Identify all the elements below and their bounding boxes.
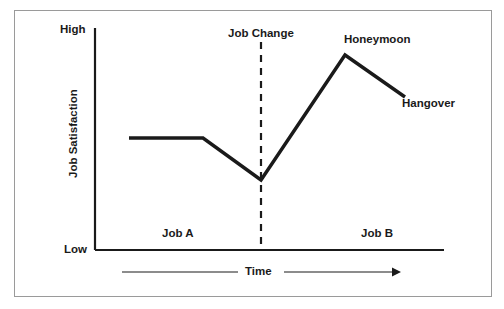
annotation-job-change: Job Change <box>228 28 294 40</box>
chart-figure: High Low Job Satisfaction Job Change Hon… <box>0 0 504 309</box>
satisfaction-line <box>129 55 405 180</box>
x-axis-title: Time <box>245 266 272 278</box>
region-label-job-b: Job B <box>361 228 393 240</box>
y-axis-tick-low: Low <box>64 244 87 256</box>
annotation-honeymoon: Honeymoon <box>344 34 410 46</box>
y-axis-title: Job Satisfaction <box>68 89 80 178</box>
annotation-hangover: Hangover <box>402 98 455 110</box>
region-label-job-a: Job A <box>162 228 194 240</box>
y-axis-tick-high: High <box>60 24 86 36</box>
time-arrow-icon <box>392 268 401 277</box>
